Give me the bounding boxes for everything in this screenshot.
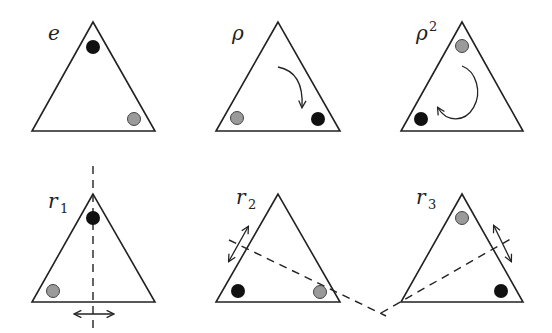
- label-r2: r: [236, 185, 247, 209]
- black-dot: [86, 211, 100, 225]
- panel-r1: r 1: [32, 166, 155, 333]
- circular-rotation-arrow-icon: [438, 66, 478, 119]
- gray-dot: [456, 212, 469, 225]
- label-r1-subscript: 1: [60, 201, 68, 216]
- label-r2-subscript: 2: [248, 197, 256, 212]
- label-r3: r: [416, 185, 427, 209]
- gray-dot: [231, 112, 244, 125]
- gray-dot: [47, 285, 60, 298]
- label-r1: r: [48, 189, 59, 213]
- black-dot: [231, 284, 245, 298]
- black-dot: [414, 112, 428, 126]
- reflection-axis: [229, 240, 386, 316]
- double-arrow-icon: [229, 227, 248, 261]
- black-dot: [86, 40, 100, 54]
- panel-identity: e: [32, 21, 155, 131]
- label-rho2: ρ: [415, 21, 428, 45]
- panel-rho-squared: ρ 2: [401, 19, 523, 131]
- gray-dot: [456, 40, 469, 53]
- black-dot: [311, 112, 325, 126]
- label-e: e: [48, 21, 60, 45]
- gray-dot: [314, 286, 327, 299]
- d3-symmetry-diagram: e ρ ρ 2 r 1 r 2: [0, 0, 552, 333]
- label-rho: ρ: [231, 21, 244, 45]
- black-dot: [494, 284, 508, 298]
- label-r3-subscript: 3: [428, 197, 436, 212]
- gray-dot: [128, 113, 141, 126]
- clockwise-rotation-arrow-icon: [278, 67, 302, 107]
- panel-rho: ρ: [216, 21, 340, 131]
- panel-r2: r 2: [216, 185, 386, 316]
- label-rho2-superscript: 2: [429, 19, 437, 34]
- panel-r3: r 3: [381, 185, 523, 313]
